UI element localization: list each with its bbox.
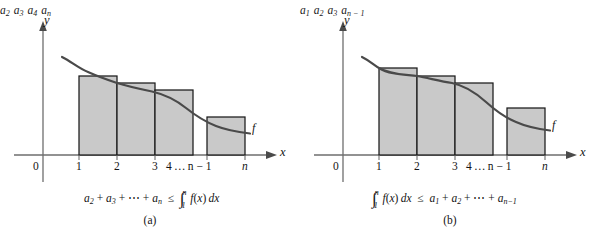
formula-b: ∫n1 f(x) dx ≤ a1 + a2 + ⋯ + an−1 xyxy=(372,189,517,209)
origin-label-b: 0 xyxy=(333,161,339,173)
rect-b-a1 xyxy=(379,68,417,155)
x-ticks-b xyxy=(379,155,545,160)
origin-label-a: 0 xyxy=(33,161,39,173)
formula-a: a2 + a3 + ⋯ + an ≤ ∫n1 f(x) dx xyxy=(84,189,219,209)
y-axis-b xyxy=(339,21,347,182)
x-ticks-a xyxy=(79,155,245,160)
y-axis-label-b: y xyxy=(344,14,350,27)
x-tick-n-b: n xyxy=(542,161,548,173)
x-tick-4-n-minus-1-a: 4 … n − 1 xyxy=(166,161,212,173)
y-axis-label-a: y xyxy=(44,14,50,27)
rectangles-b xyxy=(379,68,545,155)
x-axis-label-b: x xyxy=(580,146,586,159)
subcaption-a: (a) xyxy=(0,214,300,226)
rect-a2 xyxy=(79,76,117,155)
rect-a3 xyxy=(117,83,155,155)
curve-label-a: f xyxy=(252,122,255,134)
panel-b: y x 0 1 2 3 4 … n − 1 n a1 a2 a3 an − 1 … xyxy=(300,0,600,241)
x-tick-3-b: 3 xyxy=(452,161,458,173)
curve-label-b: f xyxy=(552,119,555,131)
subcaption-b: (b) xyxy=(300,214,600,226)
rect-an xyxy=(207,117,245,155)
x-tick-3-a: 3 xyxy=(152,161,158,173)
integral-test-figure: y x 0 1 2 3 4 … n − 1 n a2 a3 a4 an f a2… xyxy=(0,0,600,241)
y-axis-a xyxy=(39,21,47,182)
x-axis-label-a: x xyxy=(280,146,286,159)
x-tick-n-a: n xyxy=(242,161,248,173)
panel-a: y x 0 1 2 3 4 … n − 1 n a2 a3 a4 an f a2… xyxy=(0,0,300,241)
x-tick-2-a: 2 xyxy=(114,161,120,173)
x-tick-4-n-minus-1-b: 4 … n − 1 xyxy=(466,161,512,173)
rect-b-an-1 xyxy=(507,108,545,155)
rect-b-a2 xyxy=(417,76,455,155)
x-tick-1-b: 1 xyxy=(376,161,382,173)
x-tick-2-b: 2 xyxy=(414,161,420,173)
x-tick-1-a: 1 xyxy=(76,161,82,173)
rectangles-a xyxy=(79,76,245,155)
